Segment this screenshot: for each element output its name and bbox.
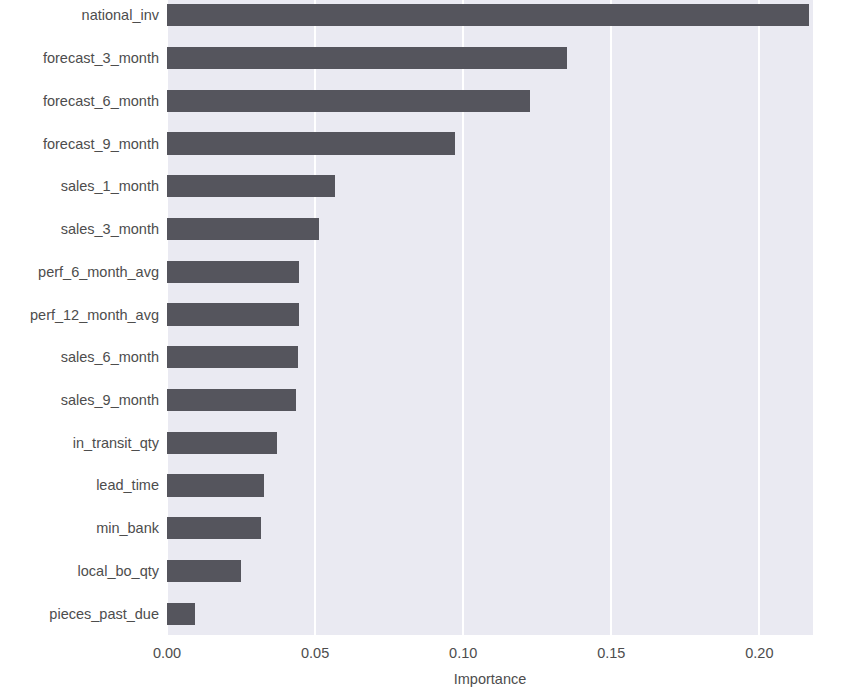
bar-perf_6_month_avg [167, 261, 299, 283]
bar-row [167, 218, 813, 240]
y-tick-label-forecast_3_month: forecast_3_month [0, 50, 159, 66]
x-tick-label-1: 0.05 [301, 645, 329, 661]
bar-row [167, 389, 813, 411]
x-axis-label: Importance [167, 671, 813, 687]
bar-forecast_9_month [167, 132, 455, 154]
bar-row [167, 47, 813, 69]
bar-row [167, 517, 813, 539]
bar-series [167, 0, 813, 635]
bar-row [167, 90, 813, 112]
bar-pieces_past_due [167, 603, 195, 625]
bar-lead_time [167, 474, 264, 496]
plot-area [167, 0, 813, 635]
bar-perf_12_month_avg [167, 303, 299, 325]
bar-forecast_6_month [167, 90, 530, 112]
y-tick-label-sales_1_month: sales_1_month [0, 178, 159, 194]
bar-forecast_3_month [167, 47, 567, 69]
y-tick-label-perf_12_month_avg: perf_12_month_avg [0, 307, 159, 323]
bar-row [167, 303, 813, 325]
y-tick-label-sales_9_month: sales_9_month [0, 392, 159, 408]
bar-row [167, 346, 813, 368]
y-tick-label-national_inv: national_inv [0, 7, 159, 23]
x-tick-label-0: 0.00 [153, 645, 181, 661]
bar-row [167, 432, 813, 454]
y-tick-label-forecast_9_month: forecast_9_month [0, 136, 159, 152]
bar-row [167, 4, 813, 26]
chart-figure: Feature Importance national_invforecast_… [0, 0, 850, 692]
y-tick-label-local_bo_qty: local_bo_qty [0, 563, 159, 579]
bar-row [167, 261, 813, 283]
bar-sales_3_month [167, 218, 319, 240]
y-tick-label-in_transit_qty: in_transit_qty [0, 435, 159, 451]
bar-row [167, 560, 813, 582]
y-tick-label-lead_time: lead_time [0, 477, 159, 493]
bar-sales_1_month [167, 175, 335, 197]
x-tick-label-2: 0.10 [449, 645, 477, 661]
bar-min_bank [167, 517, 261, 539]
y-tick-label-min_bank: min_bank [0, 520, 159, 536]
y-tick-label-forecast_6_month: forecast_6_month [0, 93, 159, 109]
bar-row [167, 175, 813, 197]
y-tick-label-perf_6_month_avg: perf_6_month_avg [0, 264, 159, 280]
bar-row [167, 474, 813, 496]
x-tick-label-3: 0.15 [597, 645, 625, 661]
bar-sales_6_month [167, 346, 298, 368]
y-axis-tick-labels: national_invforecast_3_monthforecast_6_m… [0, 0, 159, 635]
bar-row [167, 132, 813, 154]
bar-local_bo_qty [167, 560, 241, 582]
x-tick-label-4: 0.20 [745, 645, 773, 661]
x-axis-tick-labels: 0.000.050.100.150.20 [0, 645, 850, 667]
bar-sales_9_month [167, 389, 296, 411]
y-tick-label-sales_6_month: sales_6_month [0, 349, 159, 365]
bar-row [167, 603, 813, 625]
y-tick-label-sales_3_month: sales_3_month [0, 221, 159, 237]
y-tick-label-pieces_past_due: pieces_past_due [0, 606, 159, 622]
bar-national_inv [167, 4, 809, 26]
bar-in_transit_qty [167, 432, 277, 454]
